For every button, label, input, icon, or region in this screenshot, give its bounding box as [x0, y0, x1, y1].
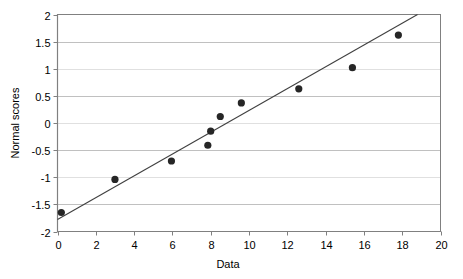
x-axis-tick-label: 8 [208, 239, 214, 251]
x-axis-tick-label: 16 [358, 239, 370, 251]
y-axis-tick-label: 1.5 [35, 37, 50, 49]
x-axis-tick-label: 18 [396, 239, 408, 251]
y-axis-tick-label: -1 [41, 172, 51, 184]
x-axis-tick-label: 2 [93, 239, 99, 251]
x-axis-tick-label: 4 [131, 239, 137, 251]
y-axis-title: Normal scores [9, 87, 21, 158]
y-axis-tick-label: 0.5 [35, 91, 50, 103]
x-axis-title: Data [216, 258, 240, 270]
data-point [238, 99, 245, 106]
x-axis-tick-label: 6 [169, 239, 175, 251]
y-axis-tick-label: 0 [44, 118, 50, 130]
y-axis-tick-label: -0.5 [32, 145, 51, 157]
y-axis-tick-label: -2 [41, 227, 51, 239]
x-axis-tick-label: 14 [320, 239, 332, 251]
data-point [204, 142, 211, 149]
x-axis-tick-label: 20 [435, 239, 447, 251]
x-axis-tick-label: 0 [55, 239, 61, 251]
x-axis-tick-label: 10 [243, 239, 255, 251]
x-axis-tick-label: 12 [281, 239, 293, 251]
chart-canvas: -2-1.5-1-0.500.511.52 02468101214161820 … [0, 0, 463, 279]
data-point [295, 85, 302, 92]
data-point [217, 113, 224, 120]
data-point [168, 157, 175, 164]
normal-probability-plot: -2-1.5-1-0.500.511.52 02468101214161820 … [0, 0, 463, 279]
chart-background [0, 0, 463, 279]
data-point [207, 128, 214, 135]
y-axis-tick-label: 1 [44, 64, 50, 76]
data-point [111, 176, 118, 183]
data-point [58, 209, 65, 216]
data-point [395, 32, 402, 39]
y-axis-tick-label: 2 [44, 10, 50, 22]
y-axis-tick-label: -1.5 [32, 199, 51, 211]
data-point [349, 64, 356, 71]
